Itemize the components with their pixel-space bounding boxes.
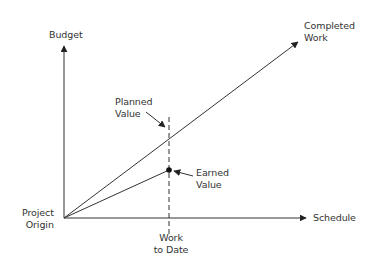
work-to-date-label: Work to Date — [151, 232, 191, 256]
completed-work-line — [64, 42, 298, 218]
earned-value-line2: Value — [196, 179, 229, 191]
earned-value-label: Earned Value — [196, 167, 229, 191]
project-origin-label: Project Origin — [22, 207, 54, 231]
budget-axis-label: Budget — [49, 29, 83, 41]
work-to-date-line1: Work — [151, 232, 191, 244]
earned-value-pointer — [174, 171, 193, 176]
project-origin-line2: Origin — [22, 219, 54, 231]
earned-value-line — [64, 170, 169, 218]
schedule-label-text: Schedule — [313, 212, 356, 224]
planned-value-line1: Planned — [115, 96, 152, 108]
earned-value-line1: Earned — [196, 167, 229, 179]
budget-label-text: Budget — [49, 29, 83, 41]
planned-value-label: Planned Value — [115, 96, 152, 120]
completed-work-label: Completed Work — [304, 20, 355, 44]
project-origin-line1: Project — [22, 207, 54, 219]
earned-value-point — [166, 167, 172, 173]
completed-work-line1: Completed — [304, 20, 355, 32]
work-to-date-line2: to Date — [151, 244, 191, 256]
schedule-axis-label: Schedule — [313, 212, 356, 224]
planned-value-line2: Value — [115, 108, 152, 120]
completed-work-line2: Work — [304, 32, 355, 44]
